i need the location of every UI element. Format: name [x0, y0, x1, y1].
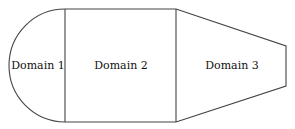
domain-1-region: Domain 1 — [9, 9, 65, 122]
domain-2-region: Domain 2 — [65, 9, 176, 122]
domain-3-label: Domain 3 — [205, 59, 259, 72]
domain-3-region: Domain 3 — [176, 9, 286, 122]
domain-1-label: Domain 1 — [11, 59, 65, 72]
domain-diagram: Domain 1 Domain 2 Domain 3 — [0, 0, 295, 129]
domain-2-label: Domain 2 — [94, 59, 148, 72]
